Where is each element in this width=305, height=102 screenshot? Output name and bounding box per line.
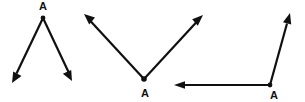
figure-background [0, 0, 305, 102]
angles-figure: A A A [0, 0, 305, 102]
angle-2-vertex-label: A [141, 87, 149, 99]
angle-3-vertex-label: A [270, 89, 278, 101]
angle-1-vertex-dot [41, 16, 46, 21]
angle-2-vertex-dot [141, 76, 147, 82]
angle-1-vertex-label: A [39, 0, 47, 12]
angle-3-vertex-dot [268, 83, 273, 88]
